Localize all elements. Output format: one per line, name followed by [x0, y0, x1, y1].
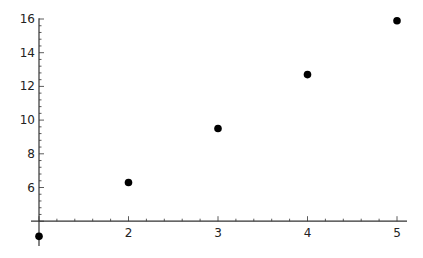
data-point	[393, 17, 401, 25]
data-point	[304, 71, 312, 79]
data-point	[214, 125, 222, 133]
data-point	[125, 179, 133, 187]
ticks	[39, 19, 397, 221]
x-tick-label: 2	[125, 226, 133, 240]
y-tick-label: 12	[20, 79, 35, 93]
y-tick-label: 8	[27, 147, 35, 161]
x-tick-label: 3	[214, 226, 222, 240]
y-tick-label: 10	[20, 113, 35, 127]
y-tick-label: 6	[27, 181, 35, 195]
data-point	[35, 233, 43, 241]
y-tick-label: 14	[20, 46, 35, 60]
x-tick-label: 5	[393, 226, 401, 240]
data-points	[35, 17, 401, 240]
y-tick-label: 16	[20, 12, 35, 26]
scatter-chart: 23456810121416	[0, 0, 423, 258]
tick-labels: 23456810121416	[20, 12, 401, 240]
x-tick-label: 4	[304, 226, 312, 240]
